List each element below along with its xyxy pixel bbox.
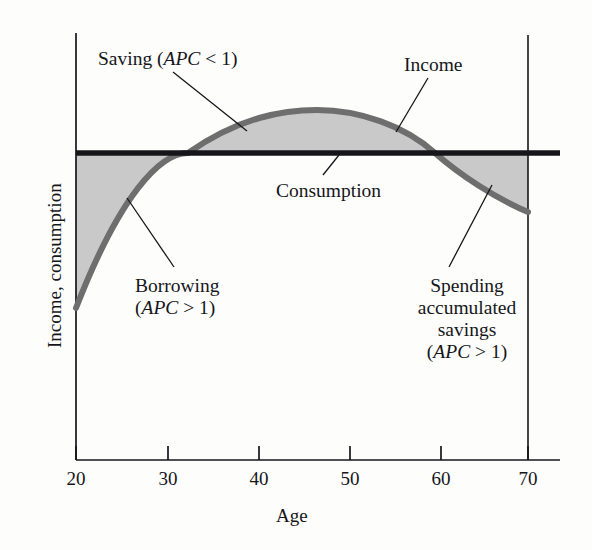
x-axis-title: Age <box>276 505 308 526</box>
annotation-spending-line4: (APC > 1) <box>403 341 531 363</box>
x-tick-label-70: 70 <box>508 468 548 489</box>
y-axis-title: Income, consumption <box>44 183 65 348</box>
x-tick-label-30: 30 <box>148 468 188 489</box>
leader-line-income <box>396 78 428 132</box>
annotation-borrowing-suffix: > 1) <box>178 297 215 318</box>
annotation-saving-apc: APC <box>164 48 201 69</box>
annotation-spending-line3: savings <box>403 319 531 341</box>
lifecycle-income-consumption-chart: Income, consumption 20 30 40 50 60 70 Ag… <box>0 0 592 550</box>
x-tick-label-20: 20 <box>56 468 96 489</box>
leader-line-consumption <box>323 155 339 175</box>
leader-line-spending <box>449 185 492 267</box>
leader-line-saving <box>173 72 247 131</box>
annotation-income: Income <box>404 54 462 76</box>
annotation-spending-apc: APC <box>433 341 470 362</box>
leader-line-borrowing <box>127 198 174 267</box>
annotation-saving-suffix: < 1) <box>200 48 237 69</box>
annotation-spending-line2: accumulated <box>403 297 531 319</box>
annotation-spending-line1: Spending <box>403 275 531 297</box>
annotation-borrowing: Borrowing(APC > 1) <box>135 275 220 319</box>
x-axis-ticks <box>76 446 528 460</box>
x-tick-label-40: 40 <box>239 468 279 489</box>
x-tick-label-60: 60 <box>421 468 461 489</box>
annotation-borrowing-line1: Borrowing <box>135 275 220 297</box>
x-tick-label-50: 50 <box>330 468 370 489</box>
annotation-spending: Spendingaccumulatedsavings(APC > 1) <box>403 275 531 363</box>
annotation-saving-prefix: Saving ( <box>98 48 164 69</box>
annotation-borrowing-line2: (APC > 1) <box>135 297 220 319</box>
annotation-consumption: Consumption <box>276 180 381 202</box>
annotation-spending-suffix: > 1) <box>470 341 507 362</box>
annotation-borrowing-apc: APC <box>142 297 179 318</box>
annotation-saving: Saving (APC < 1) <box>98 48 237 70</box>
